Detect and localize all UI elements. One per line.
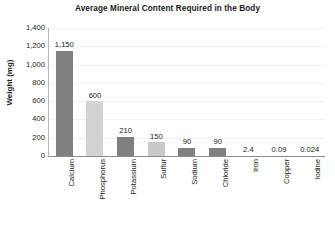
y-axis-tick-label: 800: [1, 79, 45, 87]
bar[interactable]: [209, 148, 226, 156]
bars-layer: 1,15060021015090902.40.090.024: [49, 28, 325, 156]
bar-value-label: 1,150: [49, 41, 80, 49]
bar-slot[interactable]: 90: [202, 28, 233, 156]
bar-slot[interactable]: 2.4: [233, 28, 264, 156]
x-axis-label-wrap: Copper: [264, 157, 295, 226]
bar-slot[interactable]: 0.09: [264, 28, 295, 156]
bar-chart: Average Mineral Content Required in the …: [0, 0, 335, 226]
bar-slot[interactable]: 210: [110, 28, 141, 156]
x-axis-category-label: Potassium: [129, 159, 138, 225]
bar[interactable]: [56, 51, 73, 156]
y-axis-tick-label: 1,200: [1, 42, 45, 50]
bar-slot[interactable]: 1,150: [49, 28, 80, 156]
bar-value-label: 2.4: [233, 146, 264, 154]
y-axis-tick-label: 0: [1, 152, 45, 160]
x-axis-category-label: Sodium: [190, 159, 199, 225]
chart-title: Average Mineral Content Required in the …: [0, 4, 335, 13]
bar[interactable]: [148, 142, 165, 156]
x-axis-category-label: Iodine: [313, 159, 322, 225]
x-axis-category-label: Chloride: [221, 159, 230, 225]
x-axis-category-label: Phosphorus: [98, 159, 107, 225]
x-axis-label-wrap: Sulfur: [141, 157, 172, 226]
bar[interactable]: [86, 101, 103, 156]
y-axis-tick-label: 1,000: [1, 61, 45, 69]
x-axis-category-label: Iron: [251, 159, 260, 225]
x-axis-category-label: Copper: [282, 159, 291, 225]
y-axis-tick-label: 600: [1, 97, 45, 105]
x-axis-label-wrap: Iron: [233, 157, 264, 226]
bar[interactable]: [117, 137, 134, 156]
bar-slot[interactable]: 600: [80, 28, 111, 156]
bar-value-label: 210: [110, 127, 141, 135]
bar-value-label: 0.09: [264, 146, 295, 154]
bar-value-label: 0.024: [294, 146, 325, 154]
x-axis-label-wrap: Sodium: [172, 157, 203, 226]
x-axis-label-wrap: Phosphorus: [80, 157, 111, 226]
bar[interactable]: [178, 148, 195, 156]
x-axis-label-wrap: Iodine: [294, 157, 325, 226]
x-axis-label-wrap: Potassium: [110, 157, 141, 226]
y-axis-tick-label: 400: [1, 115, 45, 123]
bar-slot[interactable]: 90: [172, 28, 203, 156]
y-axis-tick-label: 200: [1, 134, 45, 142]
bar-value-label: 90: [172, 138, 203, 146]
bar-slot[interactable]: 150: [141, 28, 172, 156]
bar-slot[interactable]: 0.024: [294, 28, 325, 156]
bar-value-label: 600: [80, 92, 111, 100]
x-axis-category-labels: CalciumPhosphorusPotassiumSulfurSodiumCh…: [49, 157, 325, 226]
y-axis-tick-label: 1,400: [1, 24, 45, 32]
x-axis-label-wrap: Chloride: [202, 157, 233, 226]
bar-value-label: 90: [202, 138, 233, 146]
x-axis-label-wrap: Calcium: [49, 157, 80, 226]
bar-value-label: 150: [141, 133, 172, 141]
x-axis-category-label: Calcium: [67, 159, 76, 225]
x-axis-category-label: Sulfur: [159, 159, 168, 225]
